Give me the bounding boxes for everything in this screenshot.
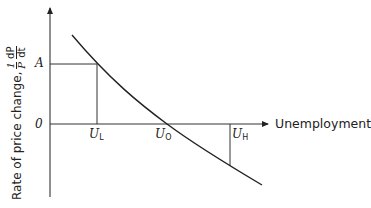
x-tick-ul: UL (89, 128, 104, 140)
fraction-dp-dt: dPdt (6, 47, 27, 59)
phillips-curve (72, 35, 262, 185)
x-tick-uo: UO (155, 128, 171, 140)
y-axis-label: Rate of price change, 1P dPdt (6, 47, 27, 201)
x-tick-uh: UH (232, 128, 248, 140)
fraction-one-over-p: 1P (6, 62, 27, 69)
x-axis-label: Unemployment (275, 116, 371, 131)
y-tick-zero: 0 (35, 118, 43, 130)
y-tick-a: A (35, 57, 44, 69)
